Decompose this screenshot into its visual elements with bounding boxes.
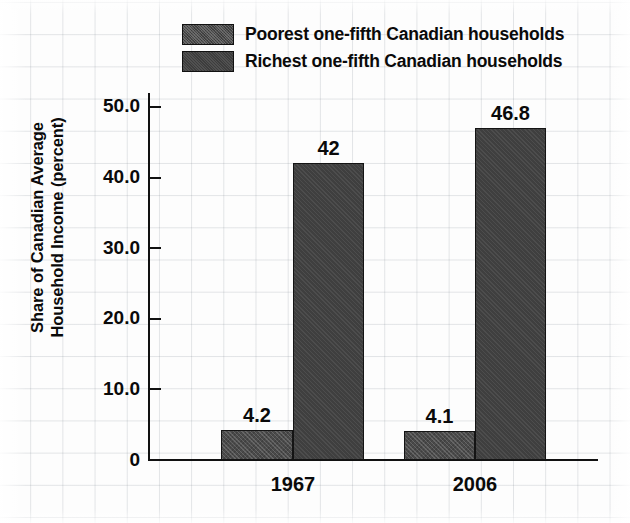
y-tick-mark-30 (150, 247, 161, 249)
chart-legend: Poorest one-fifth Canadian households Ri… (182, 22, 564, 73)
bar-poorest-2006 (404, 431, 475, 460)
bar-value-poorest-1967: 4.2 (221, 404, 293, 426)
y-axis-title-line1: Share of Canadian Average (28, 63, 48, 393)
bar-richest-1967 (293, 163, 364, 460)
y-tick-mark-10 (150, 388, 161, 390)
y-axis-line (148, 93, 150, 460)
legend-label-richest: Richest one-fifth Canadian households (245, 51, 562, 71)
legend-item-richest: Richest one-fifth Canadian households (182, 49, 564, 73)
y-tick-label-40: 40.0 (50, 167, 140, 186)
bar-value-poorest-2006: 4.1 (404, 405, 475, 427)
legend-swatch-richest-icon (182, 51, 234, 72)
bar-richest-2006 (475, 128, 546, 460)
x-category-label-1967: 1967 (253, 473, 333, 495)
bar-chart: Poorest one-fifth Canadian households Ri… (0, 0, 630, 523)
x-category-label-2006: 2006 (435, 473, 515, 495)
y-tick-label-50: 50.0 (50, 96, 140, 115)
legend-swatch-poorest-icon (182, 24, 234, 45)
y-tick-label-30: 30.0 (50, 238, 140, 257)
y-tick-label-10: 10.0 (50, 379, 140, 398)
y-tick-mark-40 (150, 177, 161, 179)
legend-item-poorest: Poorest one-fifth Canadian households (182, 22, 564, 46)
y-tick-label-0: 0 (50, 450, 140, 469)
bar-value-richest-2006: 46.8 (475, 102, 546, 124)
bar-poorest-1967 (221, 430, 293, 460)
bar-value-richest-1967: 42 (293, 137, 364, 159)
legend-label-poorest: Poorest one-fifth Canadian households (245, 24, 564, 44)
y-tick-mark-20 (150, 318, 161, 320)
y-tick-label-20: 20.0 (50, 308, 140, 327)
y-tick-mark-50 (150, 106, 161, 108)
